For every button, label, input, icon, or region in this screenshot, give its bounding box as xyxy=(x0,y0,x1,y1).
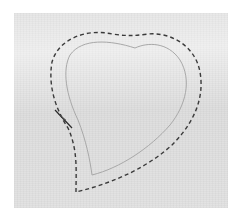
heart-drawing xyxy=(0,0,239,224)
heart-outline xyxy=(66,42,186,175)
thread-mark xyxy=(55,110,72,128)
thread-mark-2 xyxy=(58,114,66,120)
